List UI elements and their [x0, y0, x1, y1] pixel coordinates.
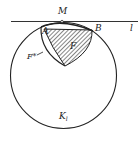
- label-f: F: [69, 41, 77, 51]
- label-f-star: F*: [26, 52, 37, 61]
- label-l: l: [130, 23, 133, 33]
- region-f: [44, 29, 92, 66]
- label-k-sub: l: [66, 115, 68, 122]
- point-m: [61, 20, 63, 22]
- label-a: A: [41, 26, 49, 36]
- label-k: Kl: [58, 111, 68, 122]
- label-m: M: [57, 6, 68, 16]
- label-b: B: [94, 23, 102, 33]
- f-star-pointer: [37, 52, 43, 55]
- geometry-diagram: M A B l F F* Kl: [0, 0, 140, 142]
